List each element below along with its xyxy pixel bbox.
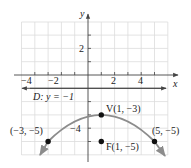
right-point-label: (5, −5) bbox=[152, 125, 179, 137]
focus-label: F(1, −5) bbox=[106, 141, 139, 153]
parabola-graph: y x −4 −2 2 4 2 −4 D: y = −1 V(1, −3) F(… bbox=[0, 0, 191, 168]
vertex-label: V(1, −3) bbox=[106, 103, 141, 115]
right-point bbox=[152, 139, 157, 144]
y-tick-label: −4 bbox=[70, 123, 81, 134]
y-axis-label: y bbox=[79, 8, 85, 19]
x-tick-label: −4 bbox=[21, 75, 32, 86]
left-point bbox=[45, 139, 50, 144]
x-tick-label: −2 bbox=[48, 75, 59, 86]
focus-point bbox=[99, 139, 104, 144]
x-tick-label: 2 bbox=[111, 75, 116, 86]
x-axis-label: x bbox=[172, 78, 178, 89]
x-tick-label: 4 bbox=[138, 75, 143, 86]
directrix-label: D: y = −1 bbox=[32, 91, 74, 102]
y-tick-label: 2 bbox=[79, 43, 84, 54]
left-point-label: (−3, −5) bbox=[10, 125, 43, 137]
vertex-point bbox=[99, 112, 104, 117]
